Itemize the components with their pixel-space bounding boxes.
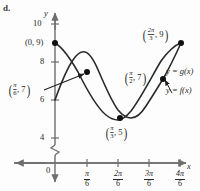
paren-open-pi3: ( xyxy=(106,127,110,139)
annotation-2pi3-tail: , 9 xyxy=(155,30,164,39)
curve-label-f: y = f(x) xyxy=(166,86,192,95)
y-tick-label-6: 6 xyxy=(40,95,44,104)
paren-open-pi2: ( xyxy=(125,72,129,84)
annotation-pi6-den: 6 xyxy=(13,89,16,96)
y-tick-label-8: 8 xyxy=(40,57,44,66)
y-axis-break-symbol xyxy=(51,145,59,155)
x-tick-label-3pi-6-den: 6 xyxy=(144,179,154,188)
paren-close-pi6: ) xyxy=(26,84,30,96)
x-axis-label: x xyxy=(187,162,191,171)
x-tick-label-4pi-6-den: 6 xyxy=(175,179,185,188)
x-tick-label-3pi-6: 3π 6 xyxy=(144,169,154,188)
x-tick-label-pi-6-den: 6 xyxy=(84,179,90,188)
paren-close-pi3: ) xyxy=(123,127,127,139)
point-0-9 xyxy=(52,40,58,46)
y-axis-label: y xyxy=(44,9,48,18)
x-tick-label-2pi-6: 2π 6 xyxy=(113,169,123,188)
paren-close-2pi3: ) xyxy=(164,29,168,41)
x-tick-label-2pi-6-den: 6 xyxy=(113,179,123,188)
annotation-point-pi2-7: ( π 2 , 7 ) xyxy=(124,69,147,86)
x-tick-label-3pi-6-num: 3π xyxy=(144,170,154,178)
y-tick-label-10: 10 xyxy=(33,19,42,28)
y-tick-label-4: 4 xyxy=(40,133,44,142)
annotation-point-pi6-7: ( π 6 , 7 ) xyxy=(8,81,31,98)
figure-panel: d. xyxy=(0,0,200,191)
x-tick-label-2pi-6-num: 2π xyxy=(113,170,123,178)
x-tick-label-4pi-6: 4π 6 xyxy=(175,169,185,188)
annotation-2pi3-den: 3 xyxy=(148,34,155,41)
paren-open-2pi3: ( xyxy=(143,29,147,41)
x-tick-label-pi-6-num: π xyxy=(84,170,90,178)
annotation-pi6-tail: , 7 xyxy=(17,85,26,94)
annotation-pi3-tail: , 5 xyxy=(114,128,123,137)
x-tick-label-4pi-6-num: 4π xyxy=(175,170,185,178)
origin-label: 0 xyxy=(46,166,50,175)
annotation-point-2pi3-9: ( 2π 3 , 9 ) xyxy=(142,26,169,43)
annotation-point-pi3-5: ( π 3 , 5 ) xyxy=(105,124,128,141)
x-tick-label-pi-6: π 6 xyxy=(84,169,90,188)
point-2pi3-9 xyxy=(178,40,184,46)
point-pi3-5 xyxy=(117,115,123,121)
curve-label-g: y = g(x) xyxy=(166,67,193,76)
annotation-pi3-den: 3 xyxy=(110,132,113,139)
point-pi6-7 xyxy=(84,69,90,75)
paren-open-pi6: ( xyxy=(9,84,13,96)
annotation-pi2-den: 2 xyxy=(129,77,132,84)
annotation-point-0-9: (0, 9) xyxy=(25,38,43,47)
annotation-pi2-tail: , 7 xyxy=(133,73,142,82)
paren-close-pi2: ) xyxy=(142,72,146,84)
